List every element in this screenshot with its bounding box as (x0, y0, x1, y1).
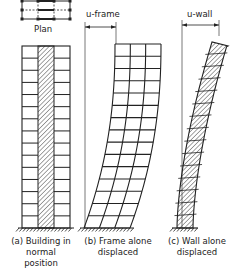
caption-c: (c) Wall alone displaced (157, 236, 237, 258)
caption-a-line1: (a) Building in (2, 236, 80, 247)
building-normal-position (16, 46, 74, 232)
plan-label: Plan (34, 24, 52, 34)
plan-view (21, 0, 71, 20)
frame-displaced (78, 22, 161, 232)
caption-a: (a) Building in normal position (2, 236, 80, 269)
caption-c-line1: (c) Wall alone (157, 236, 237, 247)
caption-a-line2: normal (2, 247, 80, 258)
caption-c-line2: displaced (157, 247, 237, 258)
caption-b: (b) Frame alone displaced (78, 236, 158, 258)
diagram-canvas (0, 0, 238, 273)
wall-displaced (170, 20, 228, 232)
u-frame-label: u-frame (86, 9, 120, 19)
u-wall-label: u-wall (187, 9, 212, 19)
caption-b-line1: (b) Frame alone (78, 236, 158, 247)
caption-a-line3: position (2, 258, 80, 269)
caption-b-line2: displaced (78, 247, 158, 258)
